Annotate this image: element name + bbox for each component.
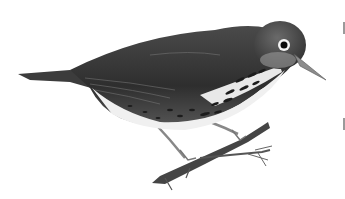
eye — [278, 39, 290, 51]
branch — [152, 122, 272, 190]
bird-on-branch-drawing — [0, 0, 345, 199]
beak — [294, 54, 326, 80]
bird-illustration — [0, 0, 345, 199]
